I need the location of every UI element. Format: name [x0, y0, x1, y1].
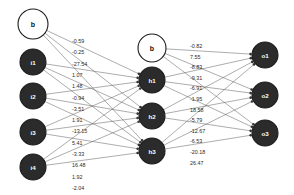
- weight-label: -0.25: [72, 49, 84, 55]
- weight-label: -0.94: [72, 95, 84, 101]
- weight-label: -3.51: [72, 106, 84, 112]
- edge-h3-to-o2: [164, 101, 252, 145]
- weight-label: -27.54: [72, 61, 87, 67]
- edge-b-to-h3: [43, 35, 142, 140]
- weight-label: -3.33: [72, 151, 84, 157]
- node-i2[interactable]: i2: [20, 83, 46, 109]
- node-label-h1: h1: [148, 77, 156, 84]
- node-label-o1: o1: [261, 52, 269, 59]
- weight-label: -6.91: [190, 85, 202, 91]
- node-h1[interactable]: h1: [139, 67, 165, 93]
- network-graph: bi1i2i3i4bh1h2h3o1o2o3-0.59-0.25-27.541.…: [0, 0, 294, 195]
- node-i1[interactable]: i1: [20, 49, 46, 75]
- weight-label: -0.59: [72, 38, 84, 44]
- node-label-i4: i4: [30, 164, 36, 171]
- weight-label: 5.41: [72, 140, 83, 146]
- weight-label: -9.31: [190, 75, 202, 81]
- edge-b-to-h2: [45, 33, 141, 107]
- node-i4[interactable]: i4: [20, 154, 46, 180]
- edge-i4-to-h3: [46, 153, 138, 165]
- node-label-i3: i3: [30, 129, 36, 136]
- node-o2[interactable]: o2: [252, 82, 278, 108]
- edge-b-to-o2: [165, 53, 252, 89]
- node-label-i2: i2: [30, 93, 36, 100]
- edge-i4-to-h2: [45, 122, 139, 162]
- edge-h1-to-o1: [165, 58, 251, 77]
- weight-label: 1.92: [72, 174, 83, 180]
- weight-label: 1.91: [72, 117, 83, 123]
- weight-label: 18.58: [190, 107, 204, 113]
- edge-i2-to-h3: [45, 101, 139, 144]
- node-label-b: b: [31, 21, 35, 28]
- weight-label: -2.04: [72, 185, 84, 191]
- node-label-h2: h2: [148, 113, 156, 120]
- edge-h3-to-o1: [162, 64, 254, 142]
- node-h2[interactable]: h2: [139, 103, 165, 129]
- weight-label: -12.67: [190, 128, 205, 134]
- node-label-b: b: [150, 45, 154, 52]
- node-label-o2: o2: [261, 92, 269, 99]
- edge-i1-to-h1: [46, 64, 138, 78]
- edge-b-to-h1: [47, 30, 139, 73]
- node-i3[interactable]: i3: [20, 119, 46, 145]
- weight-label: -0.82: [190, 43, 202, 49]
- diagram-canvas: bi1i2i3i4bh1h2h3o1o2o3-0.59-0.25-27.541.…: [0, 0, 294, 195]
- edge-b-to-o1: [166, 49, 251, 54]
- edge-h2-to-o2: [165, 98, 251, 114]
- edge-b-to-o3: [163, 56, 253, 124]
- weight-label: 7.55: [190, 54, 201, 60]
- weight-label: 16.48: [72, 162, 86, 168]
- weight-label: -5.79: [190, 117, 202, 123]
- edge-i1-to-h2: [45, 67, 139, 110]
- weight-label: 1.48: [72, 83, 83, 89]
- node-b[interactable]: b: [18, 9, 48, 39]
- edge-i4-to-h1: [43, 89, 140, 160]
- weight-label: -1.95: [190, 96, 202, 102]
- node-label-h3: h3: [148, 148, 156, 155]
- weight-label: -8.83: [190, 64, 202, 70]
- weight-label: -13.15: [72, 128, 87, 134]
- weight-label: -20.18: [190, 149, 205, 155]
- node-b[interactable]: b: [138, 34, 166, 62]
- node-label-i1: i1: [30, 59, 36, 66]
- node-label-o3: o3: [261, 130, 269, 137]
- node-o3[interactable]: o3: [252, 120, 278, 146]
- edge-h2-to-o1: [163, 62, 252, 110]
- weight-label: -6.53: [190, 138, 202, 144]
- hidden-to-output-weights: -0.827.55-8.83-9.31-6.91-1.9518.58-5.79-…: [190, 43, 205, 166]
- edge-i3-to-h1: [45, 86, 139, 127]
- edge-h3-to-o3: [165, 135, 251, 149]
- node-h3[interactable]: h3: [139, 138, 165, 164]
- edge-i3-to-h3: [46, 134, 138, 149]
- input-to-hidden-weights: -0.59-0.25-27.541.071.48-0.94-3.511.91-1…: [72, 38, 87, 195]
- weight-label: 26.47: [190, 160, 204, 166]
- node-o1[interactable]: o1: [252, 42, 278, 68]
- weight-label: 1.07: [72, 72, 83, 78]
- arrowhead-o1: [249, 53, 252, 56]
